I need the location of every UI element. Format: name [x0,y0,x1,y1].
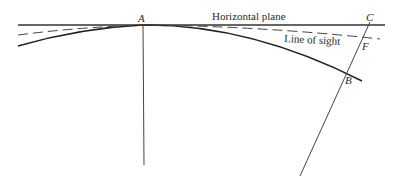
label-point-b: B [345,74,352,86]
vertical-line-a [143,25,144,165]
label-point-f: F [361,40,369,52]
label-horizontal-plane: Horizontal plane [212,10,286,22]
label-point-a: A [137,12,145,24]
label-line-of-sight: Line of sight [284,32,341,47]
curvature-diagram: A Horizontal plane C Line of sight F B [0,0,398,180]
label-point-c: C [366,11,374,23]
